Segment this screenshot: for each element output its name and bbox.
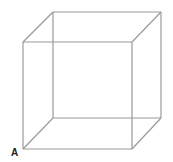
top-right-depth-edge [132, 12, 161, 42]
top-left-depth-edge [23, 12, 53, 42]
vertex-label-a: A [11, 147, 18, 158]
cube-diagram: A [0, 0, 173, 162]
bottom-left-depth-edge [23, 118, 53, 149]
wireframe-cube [0, 0, 173, 162]
bottom-right-depth-edge [132, 118, 161, 149]
